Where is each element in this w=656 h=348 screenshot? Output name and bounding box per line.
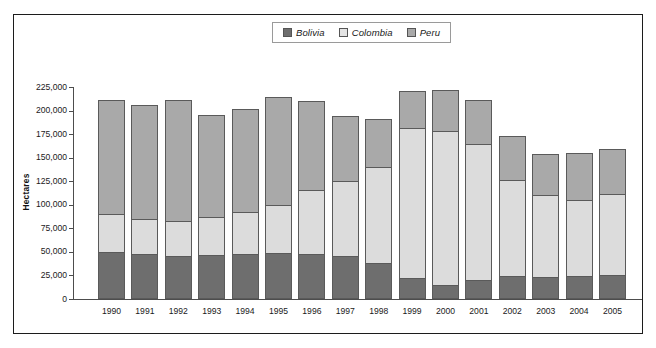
- legend-swatch-bolivia: [283, 28, 292, 37]
- legend-label-colombia: Colombia: [352, 27, 393, 38]
- legend-label-peru: Peru: [420, 27, 440, 38]
- legend-item-peru: Peru: [407, 27, 440, 38]
- legend-label-bolivia: Bolivia: [296, 27, 325, 38]
- chart-screenshot: Bolivia Colombia Peru 225,000200,000175,…: [0, 0, 656, 348]
- legend-swatch-colombia: [339, 28, 348, 37]
- chart-legend: Bolivia Colombia Peru: [272, 22, 451, 43]
- y-axis-title: Hectares: [21, 172, 31, 212]
- legend-item-colombia: Colombia: [339, 27, 393, 38]
- legend-swatch-peru: [407, 28, 416, 37]
- legend-item-bolivia: Bolivia: [283, 27, 325, 38]
- chart-frame: [13, 14, 643, 334]
